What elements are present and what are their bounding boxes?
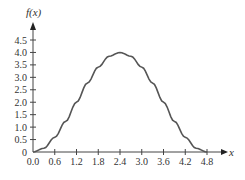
y-tick-label: 1.0 [15, 122, 28, 133]
series-line-fx [33, 52, 207, 152]
y-tick-label: 3.5 [15, 59, 28, 70]
y-axis-arrow-icon [30, 22, 36, 30]
y-tick-label: 2.5 [15, 84, 28, 95]
y-tick-label: 0 [22, 147, 27, 158]
x-tick-label: 4.8 [201, 156, 214, 167]
x-axis-label: x [228, 146, 234, 158]
y-tick-label: 1.5 [15, 109, 28, 120]
y-tick-label: 4.5 [15, 35, 28, 46]
y-axis-label: f(x) [26, 6, 42, 19]
x-tick-label: 1.2 [70, 156, 83, 167]
x-tick-label: 1.8 [92, 156, 105, 167]
y-tick-label: 4.0 [15, 47, 28, 58]
axes [30, 22, 228, 155]
x-tick-label: 3.6 [157, 156, 170, 167]
x-tick-label: 3.0 [136, 156, 149, 167]
x-tick-label: 0.0 [27, 156, 40, 167]
x-tick-label: 4.2 [179, 156, 192, 167]
x-tick-label: 0.6 [49, 156, 62, 167]
y-tick-label: 2.0 [15, 97, 28, 108]
y-tick-label: 3.0 [15, 72, 28, 83]
chart: 0.00.61.21.82.43.03.64.24.800.51.01.52.0… [0, 0, 245, 180]
y-tick-label: 0.5 [15, 134, 28, 145]
x-axis-arrow-icon [221, 149, 228, 155]
x-tick-label: 2.4 [114, 156, 127, 167]
